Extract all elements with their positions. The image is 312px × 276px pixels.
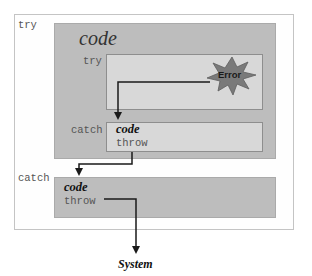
error-label: Error [218, 69, 241, 80]
error-to-inner-catch-arrow [118, 82, 210, 116]
outer-throw-to-system-arrow [104, 199, 136, 250]
system-label: System [118, 257, 153, 272]
inner-throw-to-outer-catch-arrow [79, 152, 132, 172]
arrows-layer [0, 0, 312, 276]
